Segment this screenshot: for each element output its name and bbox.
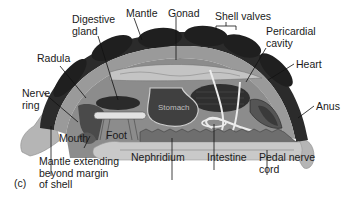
label-nerve-ring: Nerve ring	[22, 88, 50, 111]
radula-sac	[94, 112, 146, 119]
label-stomach: Stomach	[158, 103, 190, 112]
label-intestine: Intestine	[207, 152, 247, 164]
label-mantle-extending: Mantle extending beyond margin of shell	[39, 156, 119, 191]
chiton-anatomy-diagram: Digestive gland Mantle Gonad Shell valve…	[0, 0, 352, 198]
label-radula: Radula	[37, 53, 70, 65]
label-anus: Anus	[316, 101, 340, 113]
label-heart: Heart	[296, 59, 322, 71]
label-foot: Foot	[106, 130, 127, 142]
label-pedal-nerve-cord: Pedal nerve cord	[259, 152, 315, 175]
digestive-gland	[96, 96, 140, 110]
label-shell-valves: Shell valves	[215, 11, 271, 23]
label-digestive-gland: Digestive gland	[72, 14, 115, 37]
label-mantle: Mantle	[126, 8, 158, 20]
label-nephridium: Nephridium	[131, 152, 185, 164]
label-mouth: Mouth	[59, 133, 88, 145]
label-gonad: Gonad	[168, 8, 200, 20]
label-pericardial-cavity: Pericardial cavity	[266, 26, 316, 49]
panel-letter: (c)	[14, 178, 26, 190]
